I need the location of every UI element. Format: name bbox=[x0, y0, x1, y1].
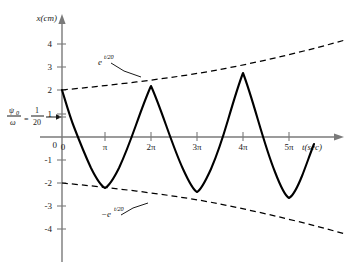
upper-envelope-base: e bbox=[98, 57, 102, 67]
initial-slope-annotation: ψ 0 ω = 1 20 bbox=[7, 106, 66, 127]
y-ticklabel-2: 2 bbox=[48, 85, 53, 95]
upper-envelope-exponent: t/20 bbox=[104, 53, 115, 60]
y-ticklabel-3: 3 bbox=[48, 62, 53, 72]
axes-group bbox=[40, 14, 344, 262]
oscillation-figure: 4 3 2 1 0 -1 -2 -3 -4 0 π 2π 3π 4π 5π x(… bbox=[0, 0, 351, 273]
y-ticklabel-4: 4 bbox=[48, 39, 53, 49]
y-ticklabel-m4: -4 bbox=[45, 224, 53, 234]
oscillation-curve bbox=[62, 73, 314, 198]
x-ticklabel-3pi: 3π bbox=[192, 142, 202, 152]
y-ticklabel-0: 0 bbox=[53, 140, 58, 150]
x-ticklabel-2pi: 2π bbox=[146, 142, 156, 152]
initial-slope-denominator-twenty: 20 bbox=[33, 118, 41, 127]
y-ticklabel-m2: -2 bbox=[45, 178, 53, 188]
lower-envelope-leader-line bbox=[121, 203, 148, 215]
initial-slope-numerator-psi: ψ bbox=[9, 106, 15, 115]
upper-envelope-annotation: e t/20 bbox=[98, 53, 141, 77]
y-axis-arrowhead bbox=[58, 14, 65, 24]
initial-slope-denominator-omega: ω bbox=[10, 118, 16, 127]
initial-slope-numerator-subscript: 0 bbox=[16, 109, 20, 116]
upper-envelope-leader-line bbox=[111, 63, 141, 77]
x-ticklabel-pi: π bbox=[103, 142, 108, 152]
x-ticklabel-4pi: 4π bbox=[238, 142, 248, 152]
plot-svg: 4 3 2 1 0 -1 -2 -3 -4 0 π 2π 3π 4π 5π x(… bbox=[0, 0, 351, 273]
initial-slope-numerator-one: 1 bbox=[35, 106, 39, 115]
y-ticklabel-m3: -3 bbox=[45, 201, 53, 211]
x-ticklabel-0: 0 bbox=[61, 142, 66, 152]
upper-envelope-curve bbox=[62, 40, 345, 90]
lower-envelope-annotation: −e t/20 bbox=[101, 203, 148, 219]
lower-envelope-exponent: t/20 bbox=[114, 205, 125, 212]
lower-envelope-base: −e bbox=[101, 209, 111, 219]
x-ticklabel-5pi: 5π bbox=[284, 142, 294, 152]
x-axis-arrowhead bbox=[334, 133, 344, 140]
y-axis-title: x(cm) bbox=[36, 13, 57, 23]
y-ticklabel-m1: -1 bbox=[45, 155, 53, 165]
y-ticklabel-1: 1 bbox=[48, 109, 53, 119]
initial-slope-equals: = bbox=[24, 115, 29, 124]
x-tick-group: 0 π 2π 3π 4π 5π bbox=[61, 132, 294, 152]
